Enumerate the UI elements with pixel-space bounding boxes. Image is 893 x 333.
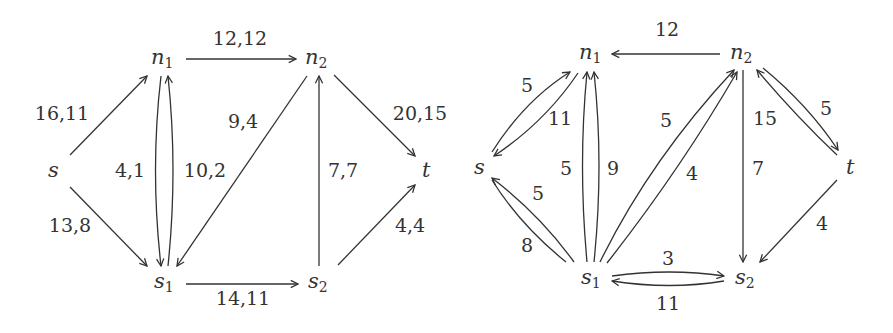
node-s1: s1: [581, 265, 601, 291]
edge-label: 14,11: [216, 287, 270, 309]
edge-label: 8: [521, 234, 533, 256]
edge-s1-n1: [168, 76, 173, 266]
node-t: t: [422, 158, 431, 182]
edge-label: 12: [655, 18, 679, 40]
edge-label: 5: [660, 109, 672, 131]
edge-label: 4: [686, 162, 698, 184]
edge-label: 3: [662, 247, 674, 269]
node-s2: s2: [735, 265, 755, 291]
edge-label: 5: [532, 182, 544, 204]
edge-label: 15: [753, 107, 777, 129]
node-n1: n1: [151, 45, 173, 71]
node-s: s: [474, 155, 485, 179]
edge-label: 7: [752, 157, 764, 179]
node-s: s: [48, 158, 59, 182]
edge-s1-n1-left: [583, 72, 588, 262]
node-n1: n1: [579, 40, 601, 66]
edge-s1-n2-upper: [600, 70, 734, 262]
residual-network: s n1 n2 s1 s2 t 12 5 11 5 8 5 9 5 4 7 15…: [474, 18, 855, 314]
edge-label: 13,8: [49, 214, 91, 236]
node-t: t: [846, 155, 855, 179]
edge-label: 9,4: [228, 110, 258, 132]
edge-label: 9: [607, 157, 619, 179]
diagram-canvas: s n1 n2 s1 s2 t 16,11 13,8 12,12 4,1 10,…: [0, 0, 893, 333]
edge-n1-s1: [156, 76, 162, 266]
edge-label: 5: [820, 97, 832, 119]
edge-label: 11: [656, 292, 680, 314]
node-s1: s1: [154, 269, 174, 295]
edge-s1-n1-right: [594, 72, 599, 262]
node-n2: n2: [305, 45, 327, 71]
edge-s1-n2-lower: [607, 72, 737, 263]
edge-label: 7,7: [328, 159, 358, 181]
edge-label: 4,1: [115, 159, 145, 181]
edge-label: 16,11: [35, 102, 89, 124]
edge-label: 4: [816, 212, 828, 234]
node-s2: s2: [308, 269, 328, 295]
edge-s1-s2: [612, 272, 724, 276]
edge-label: 5: [521, 74, 533, 96]
edge-label: 5: [560, 157, 572, 179]
edge-s2-s1: [612, 281, 724, 286]
edge-label: 10,2: [184, 159, 226, 181]
edge-label: 12,12: [213, 27, 267, 49]
edge-label: 11: [548, 107, 572, 129]
node-n2: n2: [730, 40, 752, 66]
flow-network: s n1 n2 s1 s2 t 16,11 13,8 12,12 4,1 10,…: [35, 27, 447, 309]
edge-label: 20,15: [393, 102, 447, 124]
edge-label: 4,4: [395, 214, 425, 236]
